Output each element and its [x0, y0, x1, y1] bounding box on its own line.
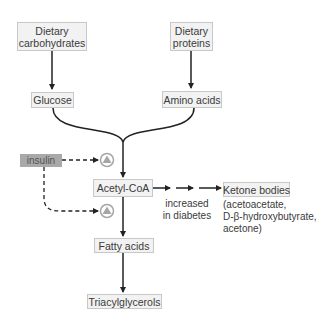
node-amino-acids: Amino acids	[162, 91, 222, 108]
metabolism-diagram: Dietary carbohydrates Dietary proteins G…	[0, 0, 330, 323]
node-fatty-acids: Fatty acids	[94, 238, 154, 253]
annotation-line: increased	[162, 198, 212, 210]
annotation-ketone-examples: (acetoacetate, D-β-hydroxybutyrate, acet…	[223, 199, 317, 235]
node-label: Dietary	[175, 25, 208, 37]
node-dietary-proteins: Dietary proteins	[170, 22, 213, 51]
node-dietary-carbohydrates: Dietary carbohydrates	[17, 22, 87, 51]
curve-amino-acids-merge	[123, 108, 194, 142]
annotation-increased-in-diabetes: increased in diabetes	[162, 198, 212, 222]
node-label: carbohydrates	[19, 37, 86, 49]
curve-glucose-merge	[53, 108, 123, 142]
annotation-line: in diabetes	[162, 210, 212, 222]
stimulation-symbol-top-icon	[101, 154, 114, 167]
node-ketone-bodies: Ketone bodies	[223, 182, 290, 197]
insulin-dashed-arrow-bottom	[44, 167, 98, 211]
node-label: Dietary	[35, 25, 68, 37]
node-glucose: Glucose	[31, 92, 74, 108]
node-acetyl-coa: Acetyl-CoA	[93, 179, 153, 197]
node-triacylglycerols: Triacylglycerols	[87, 294, 162, 309]
stimulation-symbol-bottom-icon	[101, 205, 114, 218]
annotation-line: acetone)	[223, 223, 317, 235]
node-label: proteins	[173, 37, 210, 49]
annotation-line: D-β-hydroxybutyrate,	[223, 211, 317, 223]
annotation-line: (acetoacetate,	[223, 199, 317, 211]
node-insulin: insulin	[20, 154, 62, 167]
